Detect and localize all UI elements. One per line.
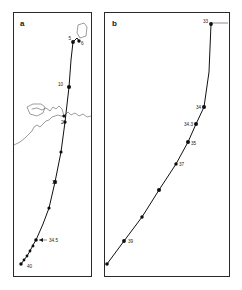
coastline-right (64, 112, 91, 117)
panel-b-plot: 33 34 34.3 35 37 39 (104, 12, 230, 277)
leader-arrowhead (39, 238, 43, 242)
panel-b-letter: b (112, 20, 117, 28)
point-label-5: 5 (68, 36, 71, 41)
track-markers-b (105, 22, 213, 266)
point-label-10: 10 (58, 82, 64, 87)
track-dot (23, 259, 26, 262)
point-label-37: 37 (179, 162, 185, 167)
track-dot (202, 105, 206, 109)
panel-b-frame (105, 13, 230, 277)
point-label-34: 34 (196, 105, 202, 110)
figure-root: 40 34.5 30 20 10 5 6 (0, 0, 242, 290)
track-dot (194, 122, 198, 126)
track-dot (186, 140, 190, 144)
point-label-34-3: 34.3 (184, 122, 193, 127)
track-dot (209, 22, 213, 26)
point-label-20: 20 (61, 120, 67, 125)
track-dot (59, 150, 62, 153)
coastline-lower (14, 115, 64, 145)
track-dot (157, 188, 161, 192)
track-dot (174, 162, 177, 165)
track-dot (29, 250, 32, 253)
track-dot (34, 238, 38, 242)
track-dot (140, 215, 143, 218)
point-label-6: 6 (81, 41, 84, 46)
track-path-a (21, 42, 73, 264)
coastline-group (14, 104, 91, 145)
coastline-upper (32, 106, 64, 116)
point-label-30: 30 (52, 180, 58, 185)
panel-a-letter: a (20, 20, 24, 28)
track-dot (19, 262, 22, 265)
track-dot (67, 85, 71, 89)
point-label-35: 35 (191, 141, 197, 146)
track-dot (26, 255, 29, 258)
point-label-33: 33 (203, 19, 209, 24)
point-label-39: 39 (128, 239, 134, 244)
panel-b: 33 34 34.3 35 37 39 (104, 12, 230, 277)
track-dot (105, 262, 109, 266)
track-dot (47, 206, 50, 209)
point-label-40: 40 (27, 264, 33, 269)
panel-a: 40 34.5 30 20 10 5 6 (13, 12, 92, 277)
leader-34-5 (39, 238, 47, 242)
island-polygon-a (77, 23, 87, 38)
track-dot (71, 40, 75, 44)
track-dot (62, 114, 65, 117)
track-markers-a (19, 39, 80, 265)
point-label-34-5: 34.5 (49, 238, 58, 243)
track-dot (32, 245, 35, 248)
panel-a-frame (14, 13, 92, 277)
track-dot (122, 239, 126, 243)
panel-a-plot: 40 34.5 30 20 10 5 6 (13, 12, 92, 277)
